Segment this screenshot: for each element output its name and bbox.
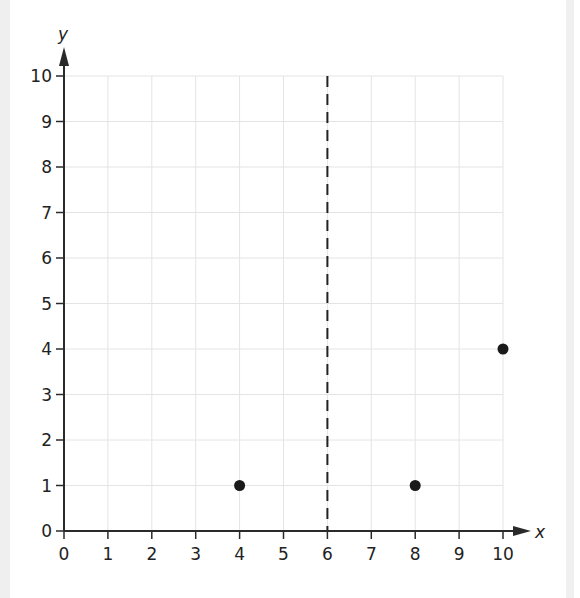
x-tick-label: 9 [454,544,465,564]
x-tick-label: 4 [234,544,245,564]
y-tick-label: 0 [41,521,52,541]
y-tick-label: 1 [41,476,52,496]
x-tick-label: 10 [492,544,514,564]
x-tick-label: 5 [278,544,289,564]
x-tick-label: 2 [146,544,157,564]
x-tick-label: 1 [102,544,113,564]
data-point [498,344,509,355]
y-tick-label: 6 [41,248,52,268]
x-tick-label: 0 [59,544,70,564]
axes [59,47,531,536]
y-tick-label: 2 [41,430,52,450]
data-point [234,480,245,491]
tick-labels: 012345678910012345678910 [30,66,513,564]
y-tick-label: 10 [30,66,52,86]
x-axis-label: x [534,522,546,542]
x-axis-arrow-icon [513,526,531,536]
grid-lines [64,76,503,531]
y-tick-label: 9 [41,112,52,132]
coordinate-grid-chart: 012345678910012345678910 x y [0,0,580,598]
x-tick-label: 8 [410,544,421,564]
y-axis-label: y [57,24,69,44]
y-tick-label: 8 [41,157,52,177]
x-tick-label: 6 [322,544,333,564]
y-tick-label: 3 [41,385,52,405]
axis-ticks [56,76,503,539]
y-axis-arrow-icon [59,47,69,66]
x-tick-label: 3 [190,544,201,564]
y-tick-label: 5 [41,294,52,314]
x-tick-label: 7 [366,544,377,564]
y-tick-label: 7 [41,203,52,223]
data-point [410,480,421,491]
y-tick-label: 4 [41,339,52,359]
